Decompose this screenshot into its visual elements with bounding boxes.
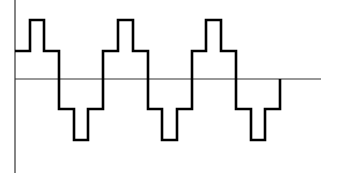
waveform-diagram: [0, 0, 338, 173]
stepped-waveform: [15, 20, 280, 140]
